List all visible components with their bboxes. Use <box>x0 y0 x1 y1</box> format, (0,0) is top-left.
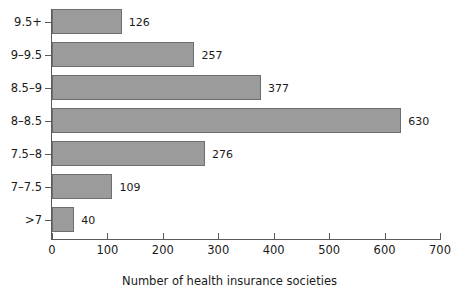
bar-chart: 12625737763027610940 9.5+9–9.58.5–98–8.5… <box>0 0 459 298</box>
y-axis-tick <box>45 187 51 188</box>
x-axis-tick <box>385 233 386 239</box>
x-axis-tick <box>107 233 108 239</box>
bar-row: 630 <box>52 108 459 133</box>
bar <box>52 108 401 133</box>
bar-value-label: 377 <box>268 81 289 94</box>
y-axis-tick <box>45 55 51 56</box>
x-axis-tick-label: 0 <box>48 243 55 257</box>
bar <box>52 141 205 166</box>
x-axis-tick <box>440 233 441 239</box>
category-label: 8.5–9 <box>0 81 42 95</box>
y-axis-tick <box>45 154 51 155</box>
category-label: 9–9.5 <box>0 48 42 62</box>
y-axis-tick <box>45 88 51 89</box>
x-axis-tick <box>52 233 53 239</box>
x-axis-tick <box>274 233 275 239</box>
x-axis-title: Number of health insurance societies <box>0 274 459 288</box>
x-axis-tick-label: 200 <box>152 243 174 257</box>
x-axis-line <box>51 239 441 240</box>
category-label: 8–8.5 <box>0 114 42 128</box>
x-axis-tick-label: 600 <box>374 243 396 257</box>
x-axis-tick <box>329 233 330 239</box>
bar <box>52 75 261 100</box>
x-axis-tick-label: 400 <box>263 243 285 257</box>
bar-row: 257 <box>52 42 459 67</box>
bar-row: 276 <box>52 141 459 166</box>
category-label: 9.5+ <box>0 15 42 29</box>
bar <box>52 207 74 232</box>
bar-value-label: 126 <box>129 15 150 28</box>
category-label: >7 <box>0 213 42 227</box>
bar <box>52 42 194 67</box>
x-axis-tick <box>218 233 219 239</box>
bar-value-label: 630 <box>408 114 429 127</box>
y-axis-tick <box>45 121 51 122</box>
category-label: 7.5–8 <box>0 147 42 161</box>
x-axis-tick-label: 100 <box>96 243 118 257</box>
x-axis-tick-label: 300 <box>207 243 229 257</box>
y-axis-tick <box>45 22 51 23</box>
y-axis-tick <box>45 220 51 221</box>
category-label: 7–7.5 <box>0 180 42 194</box>
bar-value-label: 276 <box>212 147 233 160</box>
bar <box>52 9 122 34</box>
bar-value-label: 40 <box>81 213 95 226</box>
bar-row: 40 <box>52 207 459 232</box>
bar <box>52 174 112 199</box>
x-axis-tick-label: 700 <box>429 243 451 257</box>
bar-value-label: 109 <box>119 180 140 193</box>
x-axis-tick <box>163 233 164 239</box>
bar-value-label: 257 <box>201 48 222 61</box>
bar-row: 126 <box>52 9 459 34</box>
bar-row: 109 <box>52 174 459 199</box>
x-axis-tick-label: 500 <box>318 243 340 257</box>
bar-row: 377 <box>52 75 459 100</box>
